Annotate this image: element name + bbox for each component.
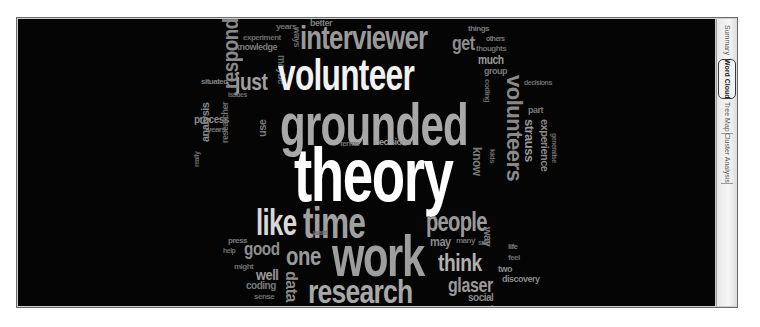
word-cloud-word[interactable]: generalise	[551, 133, 558, 163]
word-cloud-word[interactable]: thoughts	[476, 45, 506, 53]
word-cloud-word[interactable]: life	[508, 243, 518, 251]
word-cloud-word[interactable]: know	[471, 147, 483, 176]
word-cloud-word[interactable]: decisions	[524, 79, 552, 86]
word-cloud-word[interactable]: get	[452, 33, 475, 53]
word-cloud-word[interactable]: like	[256, 205, 296, 241]
word-cloud-word[interactable]: experiment	[243, 34, 281, 42]
word-cloud-word[interactable]: want	[313, 229, 327, 236]
tab-word-cloud[interactable]: Word Cloud	[718, 59, 736, 99]
word-cloud-word[interactable]: respondent	[220, 19, 242, 89]
word-cloud-word[interactable]: qualitative	[308, 305, 362, 306]
word-cloud-word[interactable]: good	[244, 240, 280, 258]
word-cloud-word[interactable]: sense	[254, 293, 274, 301]
word-cloud-word[interactable]: two	[498, 265, 512, 274]
word-cloud-word[interactable]: help	[223, 247, 235, 254]
word-cloud-word[interactable]: others	[486, 35, 504, 42]
tab-separator	[721, 183, 733, 184]
word-cloud-word[interactable]: strauss	[523, 119, 536, 162]
word-cloud-word[interactable]: kids	[488, 149, 496, 163]
word-cloud-word[interactable]: really	[193, 152, 200, 167]
word-cloud-word[interactable]: part	[528, 106, 543, 115]
word-cloud-word[interactable]: researcher	[221, 102, 230, 143]
word-cloud-word[interactable]: researcher	[466, 304, 502, 306]
word-cloud-word[interactable]: analysis	[200, 103, 211, 142]
word-cloud-word[interactable]: coding	[246, 281, 276, 291]
word-cloud-word[interactable]: many	[456, 237, 475, 245]
word-cloud-word[interactable]: experience	[539, 119, 550, 171]
tab-tree-map[interactable]: Tree Map	[718, 103, 736, 131]
tab-cluster-analysis[interactable]: Cluster Analysis	[718, 135, 736, 181]
word-cloud-word[interactable]: might	[234, 263, 253, 271]
word-cloud-word[interactable]: way	[482, 227, 493, 246]
word-cloud-word[interactable]: may	[430, 235, 451, 248]
word-cloud-word[interactable]: much	[478, 54, 504, 66]
word-cloud-word[interactable]: one	[286, 243, 321, 269]
word-cloud-word[interactable]: think	[438, 251, 482, 275]
word-cloud-canvas[interactable]: years better experiment knowledge ways i…	[18, 19, 715, 306]
word-cloud-word[interactable]: people	[426, 208, 487, 236]
word-cloud-word[interactable]: coding	[483, 79, 491, 102]
word-cloud-word[interactable]: social	[468, 293, 493, 303]
word-cloud-word[interactable]: feel	[508, 254, 520, 262]
tab-summary[interactable]: Summary	[718, 25, 736, 55]
word-cloud-word[interactable]: discovery	[502, 275, 540, 284]
visualization-tab-strip: Summary Word Cloud Tree Map Cluster Anal…	[716, 19, 737, 306]
word-cloud-word[interactable]: research	[308, 274, 412, 306]
word-cloud-word[interactable]: issues	[228, 91, 247, 98]
word-cloud-word[interactable]: data	[283, 271, 299, 302]
word-cloud-word[interactable]: use	[257, 120, 268, 137]
